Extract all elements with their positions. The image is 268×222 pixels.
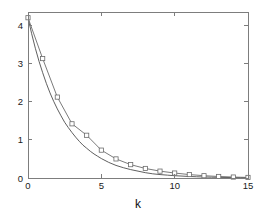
x-tick-label: 15 [243,180,254,191]
plot-background [28,12,248,178]
x-tick-label: 0 [25,180,30,191]
data-point-marker [129,163,133,167]
data-point-marker [41,56,45,60]
data-point-marker [143,166,147,170]
y-tick-label: 4 [18,20,23,31]
data-point-marker [114,157,118,161]
data-point-marker [231,175,235,179]
y-tick-label: 1 [18,134,23,145]
y-tick-label: 2 [18,96,23,107]
data-point-marker [99,148,103,152]
y-tick-label: 3 [18,58,23,69]
figure-container: 05101501234 k [0,0,268,222]
x-axis-label: k [135,197,142,211]
y-tick-label: 0 [18,173,23,184]
data-point-marker [85,133,89,137]
data-point-marker [158,169,162,173]
x-tick-label: 10 [169,180,180,191]
data-point-marker [55,95,59,99]
x-tick-label: 5 [99,180,104,191]
data-point-marker [202,174,206,178]
data-point-marker [70,122,74,126]
data-point-marker [187,172,191,176]
exponential-decay-chart: 05101501234 k [0,0,268,222]
